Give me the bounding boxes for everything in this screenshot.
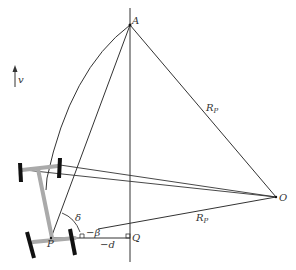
front-left-wheel — [20, 163, 21, 182]
label-delta: δ — [75, 212, 81, 223]
line-P-O — [98, 197, 276, 229]
rear-left-wheel — [27, 232, 34, 258]
vehicle-chassis — [22, 166, 75, 242]
line-A-P — [51, 25, 130, 238]
label-O: O — [279, 192, 287, 203]
label-d: −d — [100, 239, 115, 250]
point-O — [275, 196, 277, 198]
front-right-wheel — [59, 158, 60, 178]
label-P: P — [46, 238, 54, 249]
label-beta: −β — [86, 227, 100, 238]
line-front-axle-O-1 — [25, 170, 276, 197]
line-A-O — [130, 25, 276, 197]
label-Q: Q — [132, 232, 140, 243]
line-front-axle-O-2 — [60, 165, 276, 197]
label-v: v — [18, 74, 24, 85]
rear-right-wheel — [70, 229, 75, 255]
vehicle-kinematics-diagram: A O P Q v RP RP δ −β −d — [0, 0, 296, 270]
label-Rp-lower: RP — [195, 212, 209, 225]
label-A: A — [131, 15, 139, 26]
right-angle-marker-wheel — [80, 234, 84, 238]
label-Rp-upper: RP — [205, 102, 219, 115]
velocity-arrow-head — [13, 65, 18, 72]
right-angle-marker-Q — [126, 234, 130, 238]
